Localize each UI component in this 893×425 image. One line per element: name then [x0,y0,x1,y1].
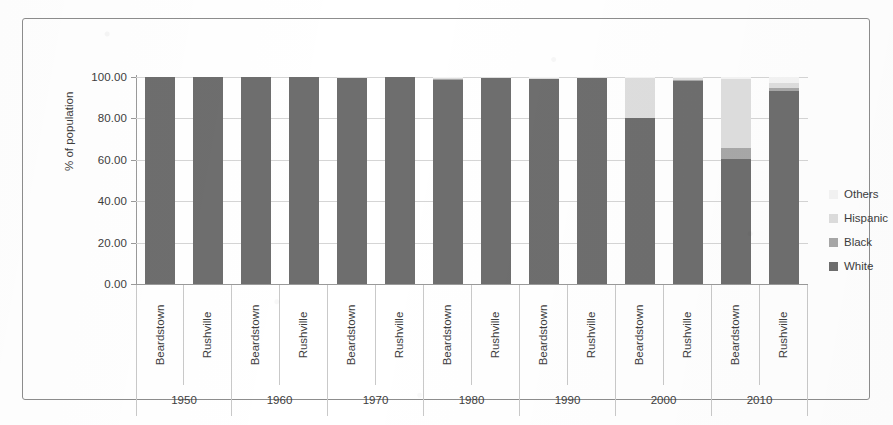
category-label-cell: Rushville [760,285,808,385]
legend-item-others[interactable]: Others [829,182,893,206]
category-label: Rushville [297,312,309,359]
plot-area: 0.0020.0040.0060.0080.00100.00 [136,77,808,284]
category-label-cell: Beardstown [616,285,664,385]
category-label: Rushville [393,312,405,359]
bar-segment-white [337,78,367,284]
category-label-cell: Beardstown [424,285,472,385]
legend-item-white[interactable]: White [829,254,893,278]
bar-rushville-2000[interactable] [673,77,703,284]
bar-segment-white [769,91,799,284]
bar-segment-white [289,77,319,284]
gridline [136,201,808,202]
y-axis-tick-mark [131,243,136,244]
year-group-label: 1950 [136,384,232,416]
bar-beardstown-1960[interactable] [241,77,271,284]
gridline [136,77,808,78]
y-axis-tick-mark [131,77,136,78]
bar-rushville-1980[interactable] [481,77,511,284]
category-label: Beardstown [250,305,262,366]
legend-label: Hispanic [844,212,888,224]
y-axis-tick-label: 100.00 [91,71,127,83]
chart-legend: OthersHispanicBlackWhite [829,182,893,278]
y-axis-tick-label: 80.00 [98,112,127,124]
category-label-cell: Rushville [376,285,424,385]
category-label: Beardstown [634,305,646,366]
legend-item-hispanic[interactable]: Hispanic [829,206,893,230]
bar-segment-white [625,118,655,284]
bar-segment-white [193,77,223,284]
category-label: Beardstown [538,305,550,366]
legend-label: White [844,260,873,272]
legend-label: Others [844,188,879,200]
bar-segment-white [721,159,751,284]
y-axis-tick-label: 60.00 [98,154,127,166]
legend-swatch-icon [829,214,838,223]
bar-beardstown-2000[interactable] [625,77,655,284]
category-label-cell: Rushville [472,285,520,385]
bar-segment-white [385,77,415,284]
legend-swatch-icon [829,190,838,199]
category-label-cell: Rushville [664,285,712,385]
bar-segment-hispanic [721,79,751,148]
bar-segment-white [577,78,607,284]
category-label: Rushville [681,312,693,359]
bar-rushville-1990[interactable] [577,77,607,284]
bar-rushville-2010[interactable] [769,77,799,284]
bar-beardstown-1990[interactable] [529,77,559,284]
year-group-label: 1970 [328,384,424,416]
category-label: Beardstown [730,305,742,366]
category-label-cell: Beardstown [328,285,376,385]
bar-beardstown-1980[interactable] [433,77,463,284]
y-axis-tick-label: 20.00 [98,237,127,249]
bar-segment-white [145,77,175,284]
year-group-label: 2000 [616,384,712,416]
bar-segment-hispanic [625,78,655,118]
bar-segment-white [481,78,511,284]
category-label: Rushville [489,312,501,359]
y-axis-tick-mark [131,118,136,119]
bar-segment-white [529,79,559,284]
category-label: Rushville [585,312,597,359]
category-label-cell: Beardstown [232,285,280,385]
legend-swatch-icon [829,238,838,247]
legend-label: Black [844,236,872,248]
bar-segment-white [673,81,703,284]
year-group-label: 1980 [424,384,520,416]
year-axis: 1950196019701980199020002010 [136,384,808,416]
category-label: Rushville [201,312,213,359]
bar-segment-white [433,80,463,284]
category-label-cell: Rushville [568,285,616,385]
y-axis-title: % of population [63,92,75,171]
category-label: Beardstown [346,305,358,366]
category-axis: BeardstownRushvilleBeardstownRushvilleBe… [136,284,808,384]
category-label: Rushville [777,312,789,359]
gridline [136,243,808,244]
category-label-cell: Beardstown [712,285,760,385]
year-group-label: 1960 [232,384,328,416]
bar-beardstown-1970[interactable] [337,77,367,284]
chart-frame: % of population 0.0020.0040.0060.0080.00… [22,18,870,400]
legend-swatch-icon [829,262,838,271]
gridline [136,160,808,161]
year-group-label: 2010 [712,384,808,416]
bar-beardstown-1950[interactable] [145,77,175,284]
bar-rushville-1950[interactable] [193,77,223,284]
category-label-cell: Beardstown [520,285,568,385]
category-label: Beardstown [442,305,454,366]
bar-rushville-1960[interactable] [289,77,319,284]
category-label-cell: Beardstown [136,285,184,385]
category-label: Beardstown [154,305,166,366]
category-label-cell: Rushville [280,285,328,385]
gridline [136,118,808,119]
bar-segment-black [721,148,751,158]
y-axis-tick-mark [131,201,136,202]
y-axis-tick-label: 0.00 [104,278,127,290]
category-label-cell: Rushville [184,285,232,385]
y-axis-tick-label: 40.00 [98,195,127,207]
bar-rushville-1970[interactable] [385,77,415,284]
year-group-label: 1990 [520,384,616,416]
bar-beardstown-2010[interactable] [721,77,751,284]
bar-segment-white [241,77,271,284]
legend-item-black[interactable]: Black [829,230,893,254]
y-axis-tick-mark [131,160,136,161]
